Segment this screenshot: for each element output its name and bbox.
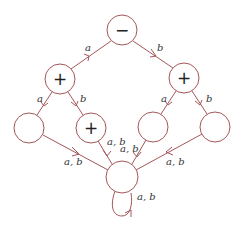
state-circle [138,112,168,142]
label-r-rl: a [161,93,167,104]
node-ll [14,113,44,143]
arrowhead-icon [103,150,111,156]
label-sink-loop: a, b [137,191,156,202]
automaton-diagram: a b a b a b a, b a, b a, b a, b a, b − +… [0,0,246,228]
node-sink [106,161,138,193]
node-lr: + [76,113,106,143]
label-r-rr: b [206,93,212,104]
label-rl-sink: a, b [120,143,139,154]
node-r: + [169,63,199,93]
node-rl [138,112,168,142]
label-root-l: a [85,42,91,53]
label-l-lr: b [80,93,86,104]
label-l-ll: a [37,93,43,104]
state-circle [14,113,44,143]
node-root: − [107,15,137,45]
edge-sink-loop [112,191,131,216]
state-symbol: + [177,68,191,88]
arrowhead-icon [166,147,173,155]
state-circle [106,161,138,193]
state-symbol: + [84,118,98,138]
state-symbol: + [53,69,67,89]
label-root-r: b [157,42,163,53]
state-circle [200,112,230,142]
node-rr [200,112,230,142]
edge-r-rr [192,91,207,114]
node-l: + [45,64,75,94]
edge-root-r [133,41,173,68]
label-rr-sink: a, b [166,156,185,167]
state-symbol: − [115,20,129,40]
edge-root-l [71,41,111,69]
label-ll-sink: a, b [64,156,83,167]
